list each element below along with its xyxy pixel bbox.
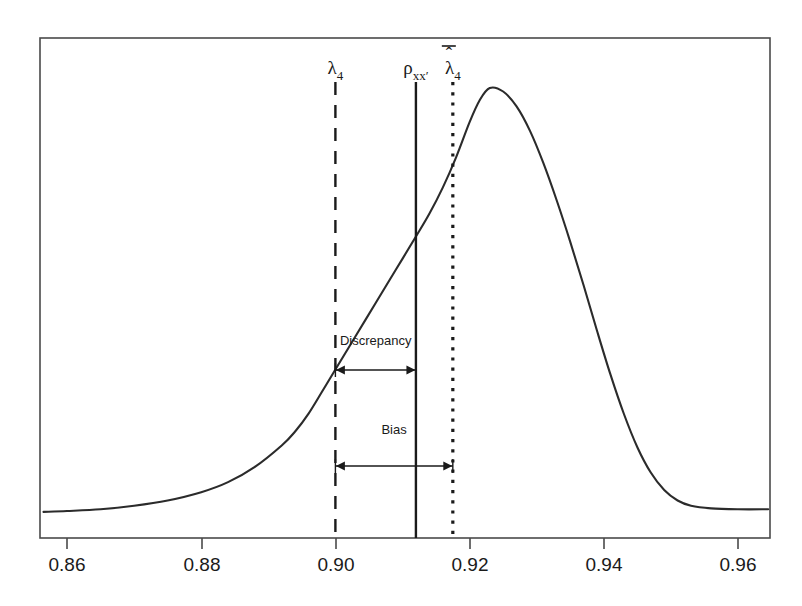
x-tick-label-2: 0.90 — [318, 554, 355, 575]
x-tick-label-3: 0.92 — [452, 554, 489, 575]
x-tick-label-1: 0.88 — [184, 554, 221, 575]
density-plot-figure: 0.860.880.900.920.940.96 λ4ρxx′λ4ˆ Discr… — [0, 0, 802, 606]
x-tick-label-4: 0.94 — [586, 554, 623, 575]
x-tick-label-5: 0.96 — [720, 554, 757, 575]
annotation-label-discrepancy: Discrepancy — [340, 333, 412, 348]
x-tick-label-0: 0.86 — [49, 554, 86, 575]
figure-background — [0, 0, 802, 606]
annotation-label-bias: Bias — [381, 422, 407, 437]
